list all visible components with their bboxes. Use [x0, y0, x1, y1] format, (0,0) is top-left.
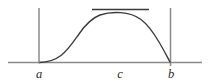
function-maximum-diagram: a c b: [0, 0, 208, 82]
math-figure-container: a c b: [0, 0, 208, 82]
axis-label-c: c: [117, 67, 123, 81]
axis-label-a: a: [36, 67, 42, 81]
axis-label-b: b: [168, 67, 174, 81]
function-curve-path: [40, 12, 171, 62]
